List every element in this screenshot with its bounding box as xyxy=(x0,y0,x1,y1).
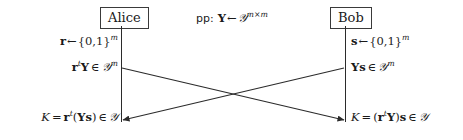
pp-variable: Y xyxy=(218,11,226,25)
pp-tag: pp: xyxy=(196,12,214,25)
bob-key-member: ∈ xyxy=(406,110,419,124)
bob-message-member: ∈ xyxy=(366,60,379,74)
timeline-alice xyxy=(121,26,122,122)
arrow-bob-to-alice xyxy=(123,68,344,120)
alice-sample-exponent: m xyxy=(111,33,118,42)
alice-key-matrix: Y xyxy=(77,110,85,124)
party-box-bob: Bob xyxy=(330,7,372,29)
pp-exponent: m×m xyxy=(247,10,268,19)
alice-key-member: ∈ xyxy=(96,110,109,124)
bob-key-equals: = xyxy=(360,110,374,124)
bob-message-exponent: m xyxy=(387,59,394,68)
alice-key-label: K=rt(Ys)∈𝒴 xyxy=(41,112,118,124)
pp-arrow-glyph: ← xyxy=(226,11,238,25)
bob-key-space: 𝒴 xyxy=(419,110,428,124)
bob-key-symbol: K xyxy=(351,110,360,124)
bob-sample-exponent: m xyxy=(402,33,409,42)
alice-sample-set: {0,1} xyxy=(78,34,111,48)
bob-sample-label: s←{0,1}m xyxy=(351,36,409,48)
party-label-alice: Alice xyxy=(108,10,141,25)
alice-sample-arrow-glyph: ← xyxy=(66,34,78,48)
bob-message-space: 𝒴 xyxy=(378,60,387,74)
alice-key-equals: = xyxy=(50,110,64,124)
alice-message-exponent: m xyxy=(111,59,118,68)
timeline-bob xyxy=(345,26,346,122)
bob-key-matrix: Y xyxy=(387,110,395,124)
protocol-diagram: Alice Bob pp:Y←𝒴m×m r←{0,1}m s←{0,1}m rt… xyxy=(0,0,463,140)
bob-sample-set: {0,1} xyxy=(369,34,402,48)
arrow-alice-to-bob xyxy=(122,68,344,120)
alice-sample-label: r←{0,1}m xyxy=(60,36,118,48)
bob-message-label: Ys∈𝒴m xyxy=(351,62,395,74)
public-parameters-label: pp:Y←𝒴m×m xyxy=(196,13,268,25)
bob-sample-arrow-glyph: ← xyxy=(357,34,369,48)
alice-key-symbol: K xyxy=(41,110,50,124)
alice-message-space: 𝒴 xyxy=(102,60,111,74)
bob-message-matrix: Y xyxy=(351,60,359,74)
alice-message-label: rtY∈𝒴m xyxy=(72,62,118,74)
bob-key-label: K=(rtY)s∈𝒴 xyxy=(351,112,428,124)
alice-message-matrix: Y xyxy=(81,60,89,74)
alice-message-member: ∈ xyxy=(89,60,102,74)
party-label-bob: Bob xyxy=(338,10,364,25)
alice-key-space: 𝒴 xyxy=(109,110,118,124)
bob-message-vector: s xyxy=(359,60,365,74)
pp-space: 𝒴 xyxy=(238,11,247,25)
party-box-alice: Alice xyxy=(100,7,149,29)
